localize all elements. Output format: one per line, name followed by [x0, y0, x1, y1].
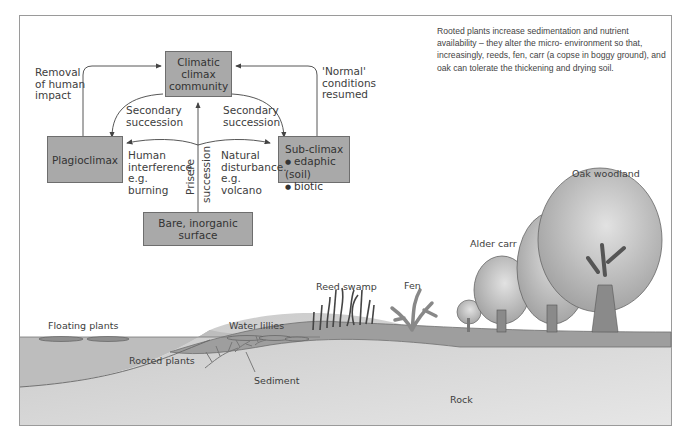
- plagioclimax-box: Plagioclimax: [47, 136, 123, 183]
- label-alder-carr: Alder carr: [470, 238, 517, 250]
- label-secondary-left: Secondary succession: [126, 105, 183, 128]
- label-floating-plants: Floating plants: [48, 320, 118, 332]
- subclimax-title: Sub-climax: [285, 143, 349, 155]
- label-sediment: Sediment: [254, 375, 299, 387]
- subclimax-item: edaphic (soil): [285, 155, 349, 180]
- climax-community-box: Climatic climax community: [165, 51, 232, 97]
- label-normal: 'Normal' conditions resumed: [322, 66, 376, 101]
- label-removal: Removal of human impact: [35, 67, 85, 102]
- label-succession: succession: [200, 146, 212, 203]
- label-fen: Fen: [404, 280, 421, 292]
- label-oak-woodland: Oak woodland: [572, 168, 640, 180]
- label-prisere: Prisere: [184, 159, 196, 195]
- label-water-lillies: Water lillies: [229, 320, 284, 332]
- label-secondary-right: Secondary succession: [223, 105, 280, 128]
- bare-surface-box: Bare, inorganic surface: [143, 212, 253, 246]
- label-reed-swamp: Reed swamp: [316, 281, 377, 293]
- subclimax-box: Sub-climax edaphic (soil) biotic: [278, 136, 350, 183]
- subclimax-item: biotic: [285, 180, 349, 193]
- label-natural-disturbance: Natural disturbance. e.g. volcano: [221, 150, 286, 196]
- label-rock: Rock: [450, 394, 473, 406]
- explanatory-note: Rooted plants increase sedimentation and…: [437, 25, 669, 74]
- label-rooted-plants: Rooted plants: [129, 355, 195, 367]
